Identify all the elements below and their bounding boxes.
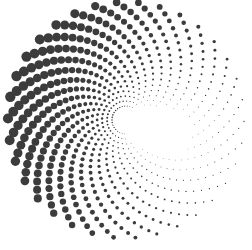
halftone-dot [181,21,186,26]
halftone-dot [105,158,108,161]
halftone-dot [92,127,95,130]
halftone-dot [126,85,128,87]
halftone-dot [176,179,177,180]
halftone-dot [116,97,118,99]
halftone-dot [103,68,107,72]
halftone-dot [138,211,141,214]
halftone-dot [108,142,110,144]
halftone-dot [54,45,62,53]
halftone-dot [62,67,69,74]
halftone-dot [124,134,125,135]
halftone-dot [69,67,75,73]
halftone-dot [152,40,156,44]
halftone-dot [96,113,99,116]
halftone-dot [112,150,114,152]
halftone-dot [134,182,136,184]
halftone-dot [121,138,122,139]
halftone-dot [214,149,215,150]
halftone-dot [195,214,197,216]
halftone-dot [85,26,92,33]
halftone-dot [92,88,96,92]
halftone-dot [205,177,206,178]
halftone-dot [62,132,67,137]
halftone-dot [122,101,124,103]
halftone-dot [76,68,82,74]
halftone-dot [129,96,131,98]
halftone-dot [107,113,109,115]
halftone-dot [136,172,138,174]
halftone-dot [74,77,80,83]
halftone-dot [223,108,224,109]
halftone-dot [200,42,203,45]
halftone-dot [73,134,78,139]
halftone-dot [105,105,107,107]
halftone-dot [28,145,36,153]
halftone-dot [100,134,102,136]
halftone-dot [34,60,43,69]
halftone-dot [98,65,103,70]
halftone-dot [188,159,189,160]
halftone-dot [82,151,86,155]
halftone-dot [23,160,31,168]
halftone-dot [143,68,146,71]
halftone-dot [112,40,117,45]
halftone-dot [34,169,42,177]
halftone-dot [214,161,215,162]
halftone-dot [124,95,126,97]
halftone-dot [178,213,180,215]
halftone-dot [60,198,66,204]
halftone-dot [117,192,120,195]
halftone-dot [112,124,113,125]
halftone-dot [104,138,106,140]
halftone-dot [127,39,132,44]
halftone-dot [137,77,139,79]
halftone-dot [149,95,150,96]
halftone-dot [80,118,84,122]
halftone-dot [67,77,73,83]
halftone-dot [101,183,105,187]
halftone-dot [227,102,228,103]
halftone-dot [113,105,115,107]
halftone-dot [130,101,131,102]
halftone-dot [99,177,102,180]
halftone-dot [158,90,159,91]
halftone-dot [153,19,158,24]
halftone-dot [94,143,97,146]
halftone-dot [147,12,153,18]
halftone-dot [198,134,199,135]
halftone-dot [203,201,205,203]
halftone-dot [186,214,188,216]
halftone-dot [123,168,125,170]
halftone-dot [111,117,113,119]
halftone-dot [133,97,134,98]
halftone-dot [111,200,115,204]
halftone-dot [242,99,244,101]
halftone-dot [157,175,158,176]
halftone-dot [150,162,151,163]
halftone-dot [40,126,47,133]
halftone-dot [133,92,135,94]
halftone-dot [113,87,116,90]
halftone-dot [94,133,97,136]
halftone-dot [54,90,61,97]
halftone-dot [147,100,148,101]
halftone-dot [81,126,85,130]
halftone-dot [168,54,171,57]
halftone-dot [194,93,195,94]
halftone-dot [141,42,145,46]
halftone-dot [126,202,129,205]
halftone-dot [61,78,68,85]
halftone-dot [187,37,191,41]
halftone-dot [70,114,75,119]
halftone-dot [208,152,209,153]
halftone-dot [169,178,170,179]
halftone-dot [131,153,132,154]
halftone-dot [212,73,214,75]
halftone-dot [145,190,147,192]
halftone-dot [33,177,41,185]
halftone-dot [89,102,93,106]
halftone-dot [187,104,188,105]
halftone-dot [163,177,164,178]
halftone-dot [136,196,138,198]
halftone-dot [109,51,114,56]
